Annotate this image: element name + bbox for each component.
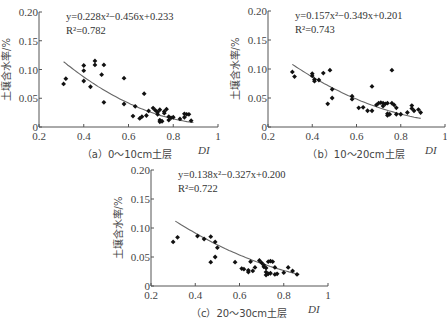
data-point [365,108,370,113]
data-point [101,63,106,68]
r-squared: R²=0.743 [295,24,335,35]
data-point [195,234,200,239]
y-tick-label: 0.15 [248,34,268,46]
panel-caption: （c）20～30cm土层 [191,307,287,319]
data-point [208,234,213,239]
y-tick-label: 0.10 [248,63,268,75]
y-tick-label: 0.15 [19,35,39,47]
data-point [330,87,335,92]
panel-caption: （b）10～20cm土层 [307,148,404,160]
figure-canvas: 00.050.100.150.200.20.40.60.81土壤含水率/%DI（… [0,0,447,322]
data-point [273,265,278,270]
x-tick-label: 1 [442,130,447,142]
data-point [295,272,300,277]
y-tick-label: 0.20 [131,164,151,176]
y-tick-label: 0.05 [19,92,39,104]
data-point [370,108,375,113]
data-point [63,76,68,81]
data-point [122,76,127,81]
x-tick-label: 1 [215,130,221,142]
panel-caption: （a）0～10cm土层 [82,148,172,160]
x-tick-label: 0.8 [166,130,180,142]
data-point [290,70,295,75]
y-axis-label: 土壤含水率/% [0,38,12,101]
x-axis-label: DI [424,144,438,156]
x-tick-label: 1 [325,289,331,301]
data-point [213,255,218,260]
data-point [370,84,375,89]
data-point [390,68,395,73]
r-squared: R²=0.782 [66,25,106,36]
x-tick-label: 0.4 [305,130,319,142]
data-point [233,260,238,265]
data-point [208,260,213,265]
regression-equation: y=0.157x²−0.349x+0.201 [295,10,403,21]
data-point [131,114,136,119]
data-point [61,81,66,86]
y-tick-label: 0.15 [131,193,151,205]
data-point [361,105,366,110]
data-point [328,68,333,73]
data-point [101,100,106,105]
chart-c-20-30cm: 00.050.100.150.200.20.40.60.81土壤含水率/%DI（… [112,164,331,319]
x-tick-label: 0.6 [350,130,364,142]
chart-b-10-20cm: 00.050.100.150.200.20.40.60.81土壤含水率/%DI（… [229,5,447,160]
data-point [325,101,330,106]
y-tick-label: 0.20 [19,6,39,18]
data-point [405,110,410,115]
data-point [81,68,86,73]
x-tick-label: 0.2 [32,130,46,142]
x-tick-label: 0.6 [233,289,247,301]
data-point [171,240,176,245]
data-point [286,265,291,270]
x-tick-label: 0.8 [394,130,408,142]
data-point [93,63,98,68]
x-tick-label: 0.2 [144,289,158,301]
regression-equation: y=0.138x²−0.327x+0.200 [178,169,286,180]
data-point [99,72,104,77]
data-point [81,79,86,84]
data-point [88,84,93,89]
r-squared: R²=0.722 [178,183,218,194]
x-tick-label: 0.6 [122,130,136,142]
data-point [330,96,335,101]
y-tick-label: 0.05 [248,92,268,104]
x-tick-label: 0.2 [261,130,275,142]
x-tick-label: 0.4 [188,289,202,301]
data-point [356,105,361,110]
data-point [213,240,218,245]
y-tick-label: 0.10 [19,64,39,76]
data-point [398,112,403,117]
y-tick-label: 0.10 [131,222,151,234]
data-point [144,113,149,118]
x-axis-label: DI [197,144,211,156]
x-axis-label: DI [307,303,321,315]
chart-a-0-10cm: 00.050.100.150.200.20.40.60.81土壤含水率/%DI（… [0,6,221,160]
data-point [133,104,138,109]
data-point [142,91,147,96]
y-tick-label: 0.20 [248,5,268,17]
x-tick-label: 0.8 [277,289,291,301]
x-tick-label: 0.4 [77,130,91,142]
fit-curve [175,221,299,274]
y-tick-label: 0.05 [131,251,151,263]
data-point [292,74,297,79]
data-point [175,235,180,240]
y-axis-label: 土壤含水率/% [112,197,124,260]
y-axis-label: 土壤含水率/% [229,38,241,101]
data-point [81,63,86,68]
regression-equation: y=0.228x²−0.456x+0.233 [66,11,174,22]
data-point [321,71,326,76]
